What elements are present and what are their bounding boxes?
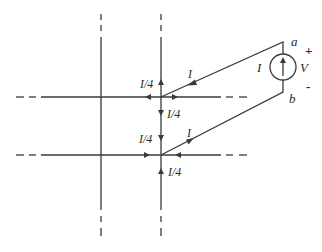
arrow-icons (144, 57, 286, 174)
arrow-left-icon (175, 152, 181, 158)
arrow-up-icon (280, 57, 286, 63)
label-plus: + (305, 44, 312, 57)
label-source-current: I (257, 61, 261, 74)
arrow-down-icon (158, 135, 164, 141)
label-node-a: a (291, 35, 298, 48)
label-lower-up-current: I/4 (139, 133, 152, 145)
label-upper-source-current: I (188, 68, 192, 80)
label-minus: - (306, 80, 310, 93)
grid-drawing (0, 0, 322, 252)
arrow-down-icon (158, 110, 164, 116)
label-upper-up-current: I/4 (140, 78, 153, 90)
label-voltage: V (300, 61, 308, 74)
label-node-b: b (289, 92, 296, 105)
circuit-diagram: I/4 I/4 I I/4 I/4 I I a b V + - (0, 0, 322, 252)
arrow-right-icon (144, 152, 150, 158)
arrow-up-icon (158, 79, 164, 85)
arrow-up-icon (158, 168, 164, 174)
source-wire-top (161, 42, 283, 97)
arrow-left-icon (145, 94, 151, 100)
arrow-right-icon (172, 94, 178, 100)
label-lower-down-current: I/4 (168, 166, 181, 178)
label-lower-source-current: I (187, 127, 191, 139)
label-upper-down-current: I/4 (167, 108, 180, 120)
